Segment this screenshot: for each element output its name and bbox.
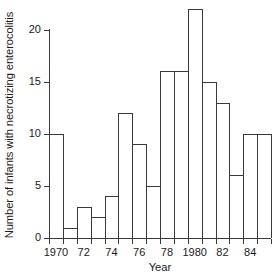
- x-tick-mark: [243, 239, 244, 244]
- bar-chart: Number of infants with necrotizing enter…: [0, 0, 275, 280]
- x-tick-mark: [229, 239, 230, 244]
- x-tick-mark: [216, 239, 217, 244]
- bar: [91, 217, 106, 238]
- bar: [257, 134, 272, 238]
- x-tick-mark: [188, 239, 189, 244]
- x-tick-mark: [202, 239, 203, 244]
- bar: [77, 207, 92, 238]
- y-tick-label: 0: [3, 232, 41, 243]
- bar: [118, 113, 133, 238]
- y-tick-label: 5: [3, 180, 41, 191]
- x-tick-mark: [118, 239, 119, 244]
- x-tick-mark: [49, 239, 50, 244]
- x-tick-mark: [132, 239, 133, 244]
- bar: [146, 186, 161, 238]
- bar: [49, 134, 64, 238]
- x-tick-mark: [77, 239, 78, 244]
- bar: [174, 71, 189, 238]
- bar: [188, 9, 203, 238]
- x-tick-mark: [105, 239, 106, 244]
- bar: [160, 71, 175, 238]
- y-tick-label: 10: [3, 128, 41, 139]
- bar: [132, 144, 147, 238]
- x-tick-mark: [160, 239, 161, 244]
- y-axis-title: Number of infants with necrotizing enter…: [0, 5, 18, 245]
- x-tick-mark: [63, 239, 64, 244]
- bar: [63, 228, 78, 238]
- bar: [243, 134, 258, 238]
- x-tick-mark: [257, 239, 258, 244]
- x-tick-mark: [174, 239, 175, 244]
- x-tick-label: 84: [230, 246, 270, 258]
- y-tick-label: 20: [3, 24, 41, 35]
- x-tick-mark: [271, 239, 272, 244]
- bars-container: [49, 12, 271, 238]
- y-tick-label: 15: [3, 76, 41, 87]
- x-axis-title: Year: [49, 261, 271, 274]
- bar: [105, 196, 120, 238]
- x-tick-mark: [146, 239, 147, 244]
- bar: [216, 103, 231, 238]
- bar: [202, 82, 217, 238]
- x-tick-mark: [91, 239, 92, 244]
- bar: [229, 175, 244, 238]
